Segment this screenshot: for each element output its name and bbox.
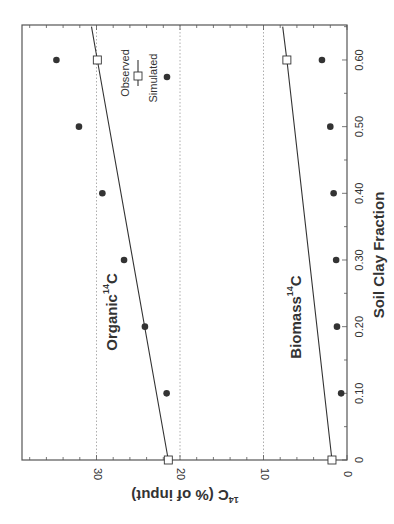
x-tick-label: 0.10 xyxy=(353,383,365,404)
axis-ticks: 010203000.100.200.300.400.500.60 xyxy=(30,25,365,480)
data-point xyxy=(99,190,106,197)
simulated-line xyxy=(283,27,332,460)
chart-svg: 010203000.100.200.300.400.500.60 Observe… xyxy=(0,0,394,524)
data-point xyxy=(338,390,345,397)
x-tick-label: 0.20 xyxy=(353,316,365,337)
x-tick-label: 0.40 xyxy=(353,183,365,204)
data-point xyxy=(76,123,83,130)
series-labels: Organic14CBiomass14C xyxy=(101,273,304,359)
data-point xyxy=(327,123,334,130)
x-tick-label: 0 xyxy=(353,457,365,463)
data-point xyxy=(53,57,60,64)
plot-frame xyxy=(22,25,347,460)
y-tick-label: 30 xyxy=(92,468,104,480)
data-point xyxy=(319,57,326,64)
data-point xyxy=(163,390,170,397)
x-tick-label: 0.50 xyxy=(353,116,365,137)
open-square-marker xyxy=(164,456,172,464)
organic-14c-label: Organic14C xyxy=(101,273,120,351)
data-point xyxy=(334,323,341,330)
open-square-marker xyxy=(328,456,336,464)
y-axis-title: 14C (% of input) xyxy=(131,487,239,505)
x-axis-title: Soil Clay Fraction xyxy=(370,192,387,319)
y-tick-label: 20 xyxy=(175,468,187,480)
legend-observed-label: Observed xyxy=(119,49,131,97)
data-point xyxy=(330,190,337,197)
y-tick-label: 10 xyxy=(259,468,271,480)
data-point xyxy=(142,323,149,330)
x-tick-label: 0.30 xyxy=(353,249,365,270)
x-tick-label: 0.60 xyxy=(353,49,365,70)
y-tick-label: 0 xyxy=(342,471,354,477)
legend: ObservedSimulated xyxy=(119,49,170,102)
data-point xyxy=(121,257,128,264)
legend-simulated-label: Simulated xyxy=(147,54,159,103)
open-square-marker xyxy=(283,56,291,64)
open-square-marker xyxy=(93,56,101,64)
biomass-14c-label: Biomass14C xyxy=(285,275,304,359)
data-point xyxy=(333,257,340,264)
legend-square-icon xyxy=(134,72,142,80)
legend-dot-icon xyxy=(164,74,171,81)
